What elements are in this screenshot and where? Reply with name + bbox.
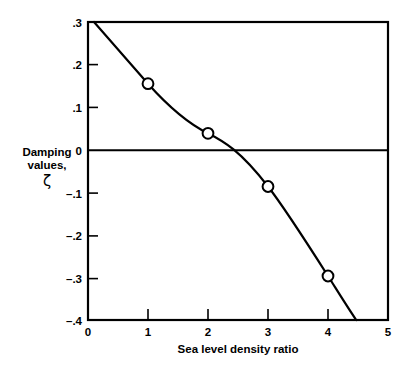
x-tick-label-5: 5 bbox=[385, 326, 392, 338]
y-tick-label-5: –.2 bbox=[66, 230, 82, 242]
data-point-marker bbox=[263, 181, 274, 192]
x-tick-label-0: 0 bbox=[85, 326, 91, 338]
data-point-marker bbox=[323, 271, 334, 282]
y-tick-label-2: .1 bbox=[72, 102, 82, 114]
x-tick-label-4: 4 bbox=[325, 326, 332, 338]
data-point-marker bbox=[143, 78, 154, 89]
y-axis-title-line-2: values, bbox=[28, 159, 67, 171]
x-tick-label-2: 2 bbox=[205, 326, 211, 338]
damping-values-line-chart: .3 .2 .1 0 –.1 –.2 –.3 –.4 0 1 2 3 4 5 S… bbox=[0, 0, 411, 366]
x-tick-label-1: 1 bbox=[145, 326, 152, 338]
x-tick-label-3: 3 bbox=[265, 326, 271, 338]
y-axis-title-line-1: Damping bbox=[22, 146, 71, 158]
y-axis-title-symbol-zeta: ζ bbox=[43, 172, 51, 190]
y-tick-label-1: .2 bbox=[72, 59, 82, 71]
y-tick-label-0: .3 bbox=[72, 17, 82, 29]
x-axis-title: Sea level density ratio bbox=[178, 343, 299, 355]
data-point-marker bbox=[203, 128, 214, 139]
y-tick-label-6: –.3 bbox=[66, 273, 82, 285]
chart-figure: .3 .2 .1 0 –.1 –.2 –.3 –.4 0 1 2 3 4 5 S… bbox=[0, 0, 411, 366]
y-tick-label-7: –.4 bbox=[66, 315, 83, 327]
y-tick-label-4: –.1 bbox=[66, 188, 83, 200]
y-tick-label-3: 0 bbox=[76, 145, 82, 157]
